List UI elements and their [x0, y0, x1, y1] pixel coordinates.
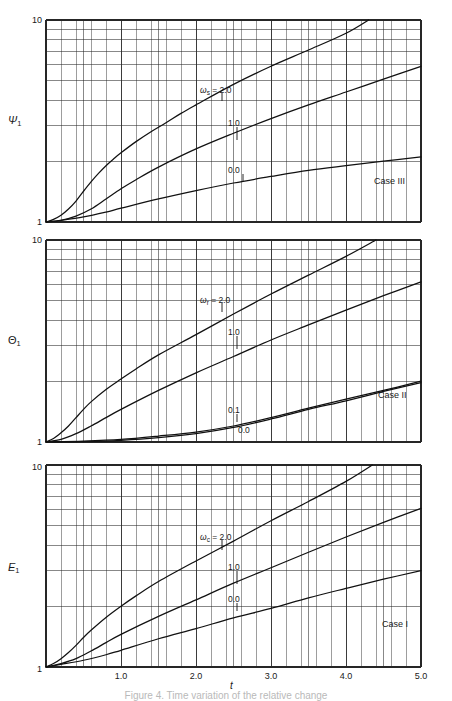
x-axis-tick-5-0: 5.0 [408, 672, 434, 681]
x-axis-tick-3-0: 3.0 [258, 672, 284, 681]
x-axis-tick-1-0: 1.0 [108, 672, 134, 681]
chart-panel-middle: 10 1 Θ1 Case II ωr = 2.0 1.0 0.1 0.0 [0, 232, 452, 464]
x-axis-tick-2-0: 2.0 [183, 672, 209, 681]
label-leader-lines [0, 0, 452, 232]
label-leader-lines [0, 464, 452, 696]
label-leader-lines [0, 232, 452, 464]
x-axis-tick-4-0: 4.0 [333, 672, 359, 681]
chart-panel-bottom: 10 1 E1 Case I ωc = 2.0 1.0 0.0 [0, 464, 452, 696]
figure-caption: Figure 4. Time variation of the relative… [0, 690, 452, 701]
chart-panel-top: 10 1 Ψ1 Case III ωs = 2.0 1.0 0.0 [0, 0, 452, 232]
